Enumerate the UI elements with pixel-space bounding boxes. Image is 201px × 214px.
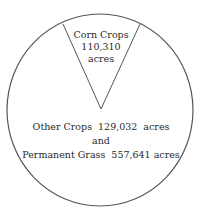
other-label-line2: and — [92, 135, 110, 146]
other-label-line1: Other Crops 129,032 acres — [33, 121, 170, 132]
corn-label-line3: acres — [88, 53, 114, 64]
pie-chart: Corn Crops 110,310 acres Other Crops 129… — [0, 0, 201, 214]
other-label-line3: Permanent Grass 557,641 acres — [22, 149, 180, 160]
corn-label-line2: 110,310 — [81, 41, 120, 52]
corn-label-line1: Corn Crops — [73, 29, 128, 40]
